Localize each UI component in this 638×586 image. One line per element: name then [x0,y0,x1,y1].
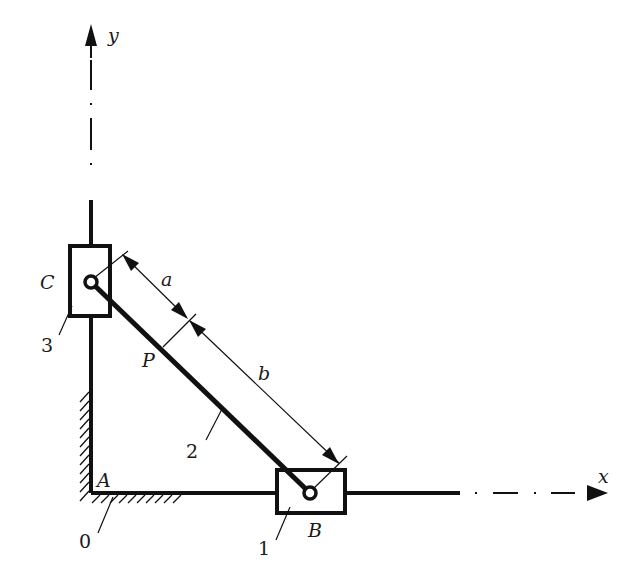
point-B-label: B [307,519,322,541]
ground-leader-line [98,497,113,533]
mechanism-diagram: y x A 0 2 [0,0,638,586]
part-0-label: 0 [79,530,91,552]
ground-hatching [80,392,181,503]
pin-B-icon [304,487,316,499]
part-3-label: 3 [41,334,53,356]
y-axis [85,24,97,493]
dimension-a-label: a [161,268,172,290]
dimension-lines [94,251,347,489]
link-leader-line [206,409,222,440]
part-2-label: 2 [186,440,198,462]
link-2 [91,282,310,493]
part-1-label: 1 [258,537,270,559]
y-axis-arrow-icon [85,24,97,46]
slider-3-leader-line [59,306,72,335]
point-A-label: A [95,469,111,491]
point-P-label: P [141,349,156,371]
x-axis-arrow-icon [587,485,608,501]
x-axis-label: x [598,465,609,487]
y-axis-label: y [107,24,119,46]
dimension-b-label: b [258,362,270,384]
point-C-label: C [40,271,55,293]
